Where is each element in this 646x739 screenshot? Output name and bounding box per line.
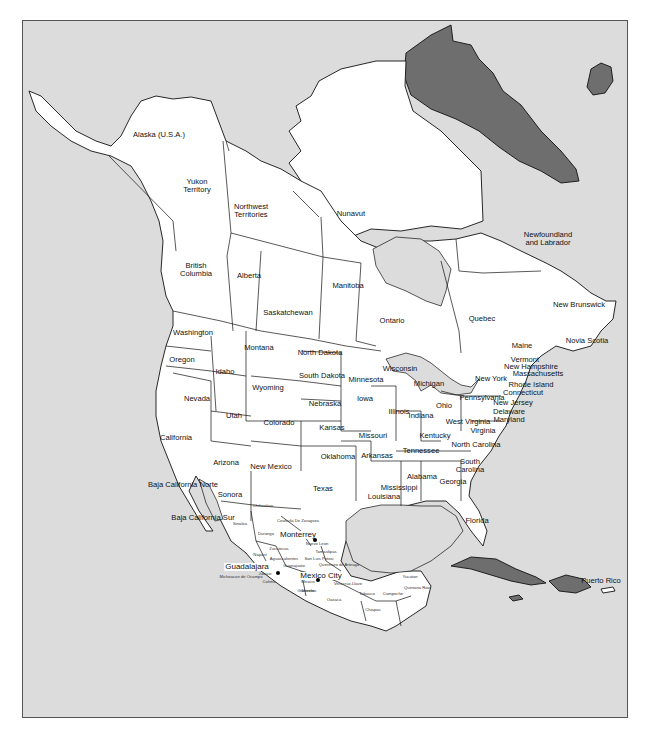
region-label-campeche: Campeche [383, 592, 403, 596]
region-label-colima: Colima [262, 580, 275, 584]
region-label-kansas: Kansas [319, 424, 344, 432]
region-label-pennsylvania: Pennsylvania [459, 394, 504, 402]
region-label-yucatan: Yucatan [402, 575, 417, 579]
region-label-north_carolina: North Carolina [452, 441, 501, 449]
region-label-connecticut: Connecticut [503, 389, 543, 397]
region-label-puerto_rico: Puerto Rico [581, 577, 621, 585]
region-label-mexico_state: Mexico [301, 580, 314, 584]
region-label-quebec: Quebec [469, 315, 496, 323]
region-label-iowa: Iowa [357, 395, 373, 403]
region-label-monterrey: Monterrey [279, 531, 317, 539]
region-label-illinois: Illinois [388, 408, 409, 416]
region-label-chiapas: Chiapas [365, 608, 380, 612]
region-label-tabasco: Tabasco [359, 592, 375, 596]
region-label-wyoming: Wyoming [252, 384, 284, 392]
region-label-florida: Florida [465, 517, 488, 525]
region-label-new_york: New York [475, 375, 507, 383]
region-label-massachusetts: Massachusetts [513, 370, 564, 378]
region-label-alabama: Alabama [407, 473, 437, 481]
city-marker-icon [316, 578, 320, 582]
region-label-tamaulipas: Tamaulipas [315, 550, 336, 554]
region-label-nayarit: Nayarit [253, 553, 266, 557]
region-label-nl: Newfoundlandand Labrador [524, 231, 573, 247]
cuba-landmass [451, 557, 546, 585]
region-label-baja_sur: Baja California Sur [171, 514, 234, 522]
region-label-utah: Utah [226, 412, 242, 420]
region-label-kentucky: Kentucky [419, 432, 450, 440]
region-label-texas: Texas [313, 485, 333, 493]
iceland-landmass [587, 63, 613, 95]
region-label-alaska: Alaska (U.S.A.) [133, 131, 185, 139]
region-label-oaxaca: Oaxaca [327, 598, 341, 602]
region-label-oklahoma: Oklahoma [321, 453, 356, 461]
jamaica-landmass [509, 595, 523, 601]
region-label-michigan: Michigan [414, 380, 444, 388]
region-label-guerrero: Guerrero [298, 589, 315, 593]
region-label-arkansas: Arkansas [361, 452, 393, 460]
region-label-tennessee: Tennessee [403, 447, 440, 455]
region-label-nevada: Nevada [184, 395, 210, 403]
region-label-nunavut: Nunavut [337, 210, 365, 218]
region-label-durango: Durango [258, 532, 274, 536]
region-label-baja_norte: Baja California Norte [148, 481, 218, 489]
region-label-maryland: Maryland [493, 416, 524, 424]
region-label-michoacan: Michoacan de Ocampo [219, 575, 262, 579]
region-label-virginia: Virginia [470, 427, 495, 435]
region-label-louisiana: Louisiana [368, 493, 401, 501]
region-label-coahuila: Coahuila De Zaragoza [277, 519, 319, 523]
region-label-queretaro: Queretaro de Arteaga [319, 563, 359, 567]
region-label-bc: BritishColumbia [180, 262, 212, 278]
region-label-georgia: Georgia [439, 478, 466, 486]
region-label-yukon: YukonTerritory [183, 178, 210, 194]
region-label-sl_potosi: San Luis Potosi [304, 557, 333, 561]
region-label-chihuahua: Chihuahua [253, 504, 273, 508]
region-label-alberta: Alberta [237, 272, 261, 280]
region-label-oregon: Oregon [169, 356, 194, 364]
region-label-california: California [160, 434, 192, 442]
region-label-arizona: Arizona [213, 459, 239, 467]
region-label-saskatchewan: Saskatchewan [263, 309, 312, 317]
region-label-quintana_roo: Quintana Roo [404, 586, 430, 590]
region-label-ontario: Ontario [380, 317, 405, 325]
puerto-rico-landmass [601, 587, 615, 593]
region-label-veracruz: Veracruz-Llave [334, 582, 362, 586]
region-label-wisconsin: Wisconsin [383, 365, 418, 373]
region-label-guanajuato: Guanajuato [283, 564, 305, 568]
region-label-montana: Montana [244, 344, 274, 352]
city-marker-icon [313, 538, 317, 542]
region-label-north_dakota: North Dakota [298, 349, 343, 357]
region-label-mississippi: Mississippi [381, 484, 418, 492]
region-label-new_mexico: New Mexico [250, 463, 291, 471]
region-label-idaho: Idaho [215, 368, 234, 376]
region-label-zacatecas: Zacatecas [269, 547, 288, 551]
region-label-missouri: Missouri [359, 432, 387, 440]
region-label-nwt: NorthwestTerritories [234, 203, 268, 219]
region-label-sonora: Sonora [218, 491, 243, 499]
region-label-guadalajara: Guadalajara [224, 563, 270, 571]
region-label-colorado: Colorado [264, 419, 295, 427]
region-label-maine: Maine [512, 342, 533, 350]
region-label-aguascalientes: Aguascalientes [270, 557, 298, 561]
region-label-south_dakota: South Dakota [299, 372, 345, 380]
region-label-manitoba: Manitoba [332, 282, 363, 290]
region-label-nova_scotia: Novia Scotia [566, 337, 609, 345]
region-label-indiana: Indiana [409, 412, 434, 420]
map-frame: YukonTerritoryNorthwestTerritoriesNunavu… [22, 20, 628, 718]
region-label-nuevo_leon: Nuevo Leon [306, 542, 329, 546]
gulf-of-mexico [346, 505, 463, 573]
region-label-sinaloa: Sinaloa [233, 522, 247, 526]
region-label-minnesota: Minnesota [348, 376, 383, 384]
region-label-washington: Washington [173, 329, 213, 337]
region-label-new_brunswick: New Brunswick [553, 301, 605, 309]
region-label-west_virginia: West Virginia [446, 418, 490, 426]
region-label-mexico_city: Mexico City [299, 572, 342, 580]
city-marker-icon [276, 571, 280, 575]
region-label-ohio: Ohio [436, 402, 452, 410]
region-label-south_carolina: SouthCarolina [456, 458, 484, 474]
region-label-nebraska: Nebraska [309, 400, 342, 408]
